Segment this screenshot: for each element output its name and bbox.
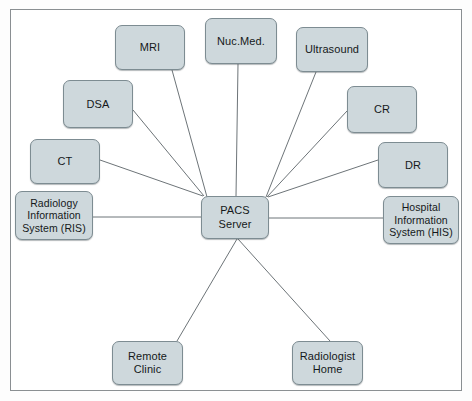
node-ct[interactable]: CT bbox=[30, 139, 100, 184]
node-ris[interactable]: Radiology Information System (RIS) bbox=[15, 191, 93, 240]
node-label-nuc-med: Nuc.Med. bbox=[215, 35, 267, 48]
node-label-remote-clinic: Remote Clinic bbox=[126, 350, 169, 376]
node-label-ct: CT bbox=[56, 155, 75, 168]
node-label-pacs-server: PACS Server bbox=[217, 204, 254, 231]
node-pacs-server[interactable]: PACS Server bbox=[201, 196, 269, 239]
node-ultrasound[interactable]: Ultrasound bbox=[296, 27, 368, 72]
pacs-network-diagram: MRINuc.Med.UltrasoundDSACRCTDRRadiology … bbox=[0, 0, 472, 401]
node-label-dsa: DSA bbox=[85, 98, 112, 111]
node-label-ultrasound: Ultrasound bbox=[303, 43, 361, 56]
node-cr[interactable]: CR bbox=[347, 86, 417, 133]
edge-ultrasound-pacs bbox=[266, 72, 316, 197]
node-label-radiologist-home: Radiologist Home bbox=[298, 350, 358, 376]
node-his[interactable]: Hospital Information System (HIS) bbox=[383, 196, 459, 244]
node-radiologist-home[interactable]: Radiologist Home bbox=[292, 341, 363, 385]
node-nuc-med[interactable]: Nuc.Med. bbox=[205, 18, 277, 64]
edge-pacs-remote-clinic bbox=[177, 239, 237, 341]
edge-dsa-pacs bbox=[133, 110, 204, 196]
edge-nucmed-pacs bbox=[236, 64, 238, 196]
node-mri[interactable]: MRI bbox=[115, 25, 185, 70]
node-label-dr: DR bbox=[403, 159, 423, 172]
node-label-his: Hospital Information System (HIS) bbox=[387, 201, 455, 239]
node-label-ris: Radiology Information System (RIS) bbox=[20, 197, 88, 235]
node-dsa[interactable]: DSA bbox=[63, 80, 133, 128]
edge-pacs-radiologist-home bbox=[238, 239, 330, 341]
node-dr[interactable]: DR bbox=[378, 142, 448, 188]
node-label-mri: MRI bbox=[138, 41, 162, 54]
node-label-cr: CR bbox=[372, 103, 392, 116]
node-remote-clinic[interactable]: Remote Clinic bbox=[112, 341, 183, 385]
edge-ct-pacs bbox=[100, 160, 203, 196]
